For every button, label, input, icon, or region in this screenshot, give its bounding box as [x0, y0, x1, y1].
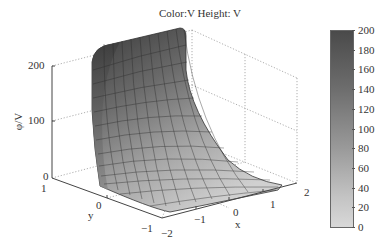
x-axis-label: x	[235, 219, 241, 230]
colorbar-tick-200: 200	[358, 25, 375, 36]
x-tick-1: 1	[270, 199, 276, 210]
z-axis-label: φ/V	[13, 113, 24, 130]
colorbar-tick-180: 180	[358, 45, 375, 56]
z-tick-200: 200	[28, 60, 45, 71]
x-tick-neg1: −1	[194, 214, 206, 225]
x-tick-neg2: −2	[161, 228, 173, 239]
z-tick-0: 0	[43, 171, 49, 182]
colorbar-tick-160: 160	[358, 64, 375, 75]
y-axis-label: y	[88, 210, 94, 221]
y-tick-1: 1	[41, 183, 47, 194]
y-tick-neg1: −1	[141, 223, 153, 234]
colorbar-tick-140: 140	[358, 84, 375, 95]
colorbar-tick-80: 80	[358, 143, 369, 154]
colorbar-tick-0: 0	[358, 222, 364, 233]
colorbar-tick-20: 20	[358, 202, 369, 213]
colorbar-tick-60: 60	[358, 163, 369, 174]
surface-plot	[92, 28, 282, 212]
z-tick-100: 100	[28, 115, 45, 126]
colorbar-tick-120: 120	[358, 104, 375, 115]
colorbar-tick-40: 40	[358, 183, 369, 194]
colorbar	[330, 30, 354, 228]
y-tick-0: 0	[96, 200, 102, 211]
x-tick-2: 2	[304, 187, 310, 198]
x-tick-0: 0	[233, 207, 239, 218]
colorbar-tick-100: 100	[358, 124, 375, 135]
